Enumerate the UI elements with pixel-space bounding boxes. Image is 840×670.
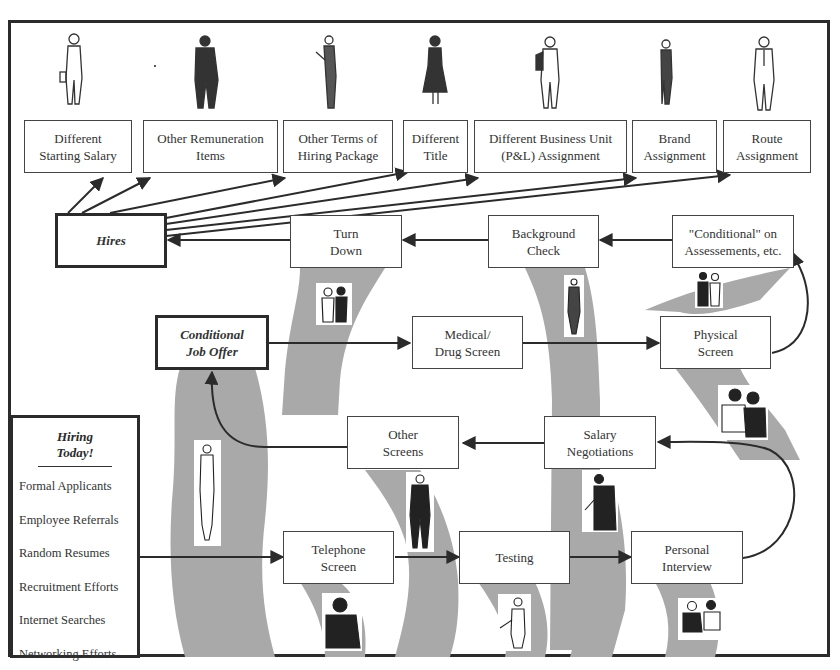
node-label: Physical Screen xyxy=(693,326,737,360)
node-different-title: Different Title xyxy=(403,120,468,173)
node-label: Other Terms of Hiring Package xyxy=(298,130,379,164)
node-label: Background Check xyxy=(512,225,576,259)
node-testing: Testing xyxy=(459,531,570,584)
node-label: Salary Negotiations xyxy=(567,426,633,460)
node-turn-down: Turn Down xyxy=(290,215,402,268)
node-label: Turn Down xyxy=(330,225,362,259)
node-label: Brand Assignment xyxy=(643,130,705,164)
node-label: Medical/ Drug Screen xyxy=(435,326,500,360)
node-route-assignment: Route Assignment xyxy=(723,120,811,173)
node-conditional-job-offer: Conditional Job Offer xyxy=(155,315,269,370)
legend-item-employee-referrals: Employee Referrals xyxy=(13,504,137,538)
legend-item-internet-searches: Internet Searches xyxy=(13,604,137,638)
node-salary-negotiations: Salary Negotiations xyxy=(544,416,656,469)
man-with-tie-icon xyxy=(754,37,774,110)
node-conditional-on-assessments: "Conditional" on Assessements, etc. xyxy=(672,215,794,268)
node-other-remuneration-items: Other Remuneration Items xyxy=(143,120,278,173)
woman-in-dress-icon xyxy=(194,440,221,546)
legend-divider xyxy=(38,466,112,467)
legend-item-networking-efforts: Networking Efforts xyxy=(13,638,137,670)
node-label: Other Screens xyxy=(383,426,423,460)
node-label: Hires xyxy=(96,232,126,249)
node-label: Route Assignment xyxy=(736,130,798,164)
man-with-jacket-icon xyxy=(536,37,559,108)
node-label: Different Starting Salary xyxy=(39,130,117,164)
node-other-terms-hiring-package: Other Terms of Hiring Package xyxy=(283,120,393,173)
node-label: Conditional Job Offer xyxy=(180,326,244,360)
man-in-suit-icon xyxy=(195,36,218,108)
node-label: Telephone Screen xyxy=(312,541,366,575)
node-different-starting-salary: Different Starting Salary xyxy=(24,120,132,173)
legend-title: Hiring Today! xyxy=(13,429,137,461)
node-label: Different Business Unit (P&L) Assignment xyxy=(489,130,612,164)
node-label: Different Title xyxy=(412,130,459,164)
node-label: Personal Interview xyxy=(662,541,712,575)
legend-item-random-resumes: Random Resumes xyxy=(13,537,137,571)
node-personal-interview: Personal Interview xyxy=(631,531,743,584)
legend-item-recruitment-efforts: Recruitment Efforts xyxy=(13,571,137,605)
woman-walking-icon xyxy=(661,40,672,104)
node-label: Testing xyxy=(495,549,533,566)
woman-in-skirt-icon xyxy=(423,36,447,104)
hiring-today-legend: Hiring Today! Formal Applicants Employee… xyxy=(10,415,140,658)
node-label: Other Remuneration Items xyxy=(157,130,264,164)
person-with-briefcase-icon xyxy=(60,34,82,104)
node-label: "Conditional" on Assessements, etc. xyxy=(684,225,781,259)
node-different-business-unit: Different Business Unit (P&L) Assignment xyxy=(474,120,627,173)
node-medical-drug-screen: Medical/ Drug Screen xyxy=(412,316,523,369)
stray-mark xyxy=(154,65,156,67)
node-background-check: Background Check xyxy=(488,215,599,268)
node-telephone-screen: Telephone Screen xyxy=(283,531,394,584)
node-hires: Hires xyxy=(55,213,167,268)
node-other-screens: Other Screens xyxy=(347,416,459,469)
node-brand-assignment: Brand Assignment xyxy=(632,120,717,173)
legend-item-formal-applicants: Formal Applicants xyxy=(13,470,137,504)
person-reading-icon xyxy=(316,36,336,108)
node-physical-screen: Physical Screen xyxy=(660,316,771,369)
